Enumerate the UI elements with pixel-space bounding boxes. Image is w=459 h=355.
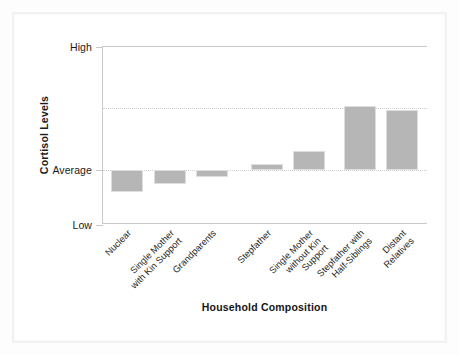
y-tick-low: [96, 225, 103, 226]
y-axis-title: Cortisol Levels: [36, 46, 52, 224]
bar-6[interactable]: [386, 110, 418, 170]
y-axis-title-text: Cortisol Levels: [38, 96, 50, 174]
bar-0[interactable]: [111, 170, 143, 192]
y-label-high: High: [70, 41, 92, 53]
bar-series: [103, 47, 427, 223]
x-axis-title: Household Composition: [102, 301, 427, 313]
plot-area: High Average Low: [102, 46, 427, 224]
bar-3[interactable]: [251, 164, 283, 170]
x-axis-tick-labels: NuclearSingle Motherwith Kin SupportGran…: [102, 228, 427, 300]
bar-4[interactable]: [293, 151, 325, 169]
bar-2[interactable]: [196, 170, 228, 177]
y-tick-high: [96, 47, 103, 48]
bar-5[interactable]: [344, 106, 376, 170]
chart-page: Cortisol Levels High Average Low Nuclear…: [0, 0, 459, 355]
y-label-average: Average: [52, 164, 92, 176]
y-label-low: Low: [72, 219, 92, 231]
y-tick-average: [96, 170, 103, 171]
bar-1[interactable]: [154, 170, 186, 185]
